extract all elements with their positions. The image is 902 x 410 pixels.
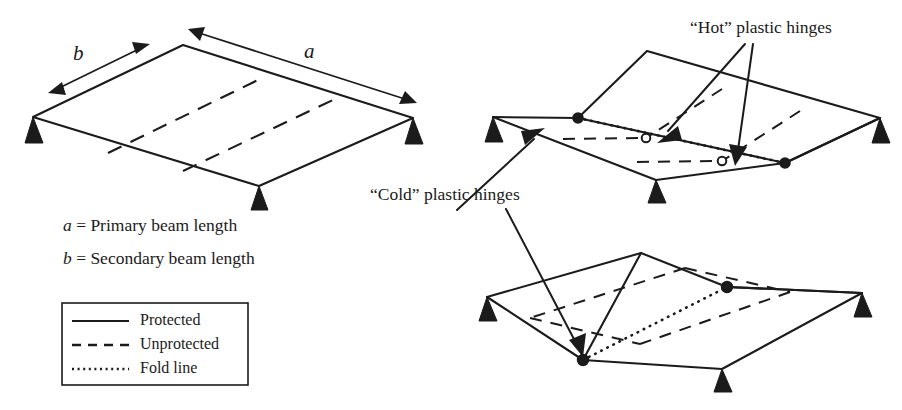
slab-outline-left — [33, 45, 413, 186]
leader-hot-hinge-2 — [729, 44, 753, 166]
legend-label-protected: Protected — [140, 311, 200, 329]
definition-a-equals: = — [76, 215, 86, 235]
unprotected-beam-top-4 — [637, 161, 722, 162]
support-left-c — [251, 186, 268, 210]
leader-hot-hinge-1 — [657, 44, 745, 143]
unprotected-beam-top-3 — [563, 138, 646, 139]
definition-a-text: Primary beam length — [90, 215, 237, 235]
support-top-c — [648, 180, 666, 203]
unprotected-beam-left-2 — [183, 99, 335, 171]
slab-bottom-lower-facet — [487, 293, 862, 369]
dimension-arrow-a — [188, 27, 417, 104]
cold-hinge-bottom-2 — [722, 282, 733, 293]
legend-label-unprotected: Unprotected — [140, 335, 219, 353]
support-left-b — [405, 118, 423, 144]
cold-hinge-top-2 — [780, 158, 790, 168]
cold-hinge-top-1 — [573, 113, 583, 123]
definition-b-symbol: b — [63, 248, 72, 268]
unprotected-beam-left-1 — [108, 80, 258, 153]
slab-bottom-upper-facet — [583, 253, 862, 360]
support-bottom-c — [714, 369, 732, 392]
legend-label-fold-line: Fold line — [140, 359, 197, 377]
definition-b: b = Secondary beam length — [63, 248, 255, 269]
support-top-b — [872, 118, 890, 143]
dimension-label-b: b — [73, 41, 84, 66]
definition-a: a = Primary beam length — [63, 215, 237, 236]
slab-top-upper-facet — [578, 51, 880, 163]
fold-line-bottom — [583, 287, 727, 360]
unprotected-beam-bottom-1 — [530, 268, 685, 318]
panel-folded-slab-top — [485, 44, 890, 203]
diagram-svg — [0, 0, 902, 410]
hot-hinge-top-2 — [718, 157, 727, 166]
annotation-cold-hinges: “Cold” plastic hinges — [370, 184, 520, 205]
unprotected-beam-bottom-2 — [640, 292, 790, 344]
panel-undeformed-slab — [25, 27, 423, 210]
dimension-label-a: a — [304, 39, 315, 64]
figure-container: b a a = Primary beam length b = Secondar… — [0, 0, 902, 410]
hot-hinge-top-1 — [642, 134, 651, 143]
panel-folded-slab-bottom — [479, 253, 872, 392]
slab-bottom-right-edge — [727, 287, 862, 293]
definition-b-equals: = — [76, 248, 86, 268]
annotation-hot-hinges: “Hot” plastic hinges — [690, 17, 832, 38]
support-left-a — [25, 117, 43, 143]
definition-b-text: Secondary beam length — [90, 248, 254, 268]
definition-a-symbol: a — [63, 215, 72, 235]
